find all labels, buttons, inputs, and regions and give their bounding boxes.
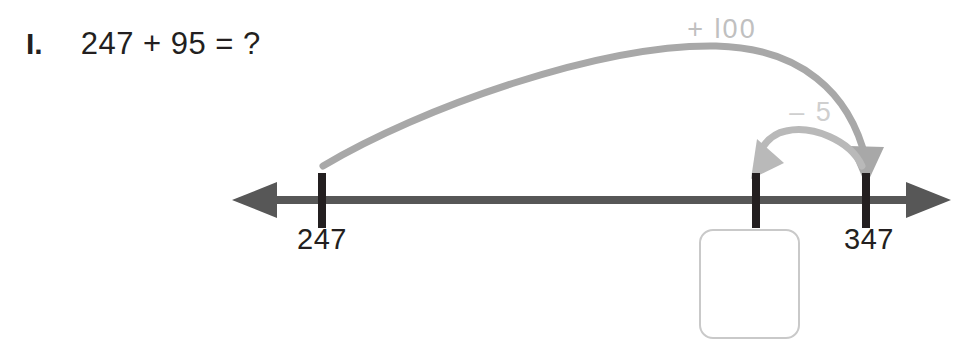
arrow-left-icon — [232, 182, 277, 218]
answer-box[interactable] — [699, 229, 800, 339]
number-line-diagram — [0, 0, 966, 350]
worksheet-page: I. 247 + 95 = ? 247 347 + l00 – 5 — [0, 0, 966, 350]
jump-label-minus-5: – 5 — [789, 97, 833, 128]
tick-label-347: 347 — [844, 223, 894, 256]
tick-label-247: 247 — [297, 223, 347, 256]
jump-label-plus-100: + l00 — [687, 14, 756, 45]
jump-arc-minus-5 — [751, 130, 862, 179]
arrow-right-icon — [906, 182, 951, 218]
